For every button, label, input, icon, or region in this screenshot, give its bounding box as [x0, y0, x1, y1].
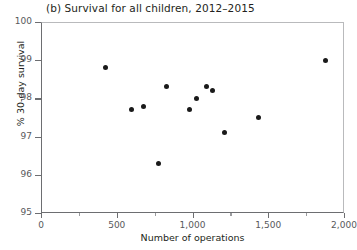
y-axis-tick-label: 100 — [0, 16, 32, 26]
x-axis-tick-label: 1,000 — [168, 220, 218, 230]
y-axis-tick-label: 98 — [0, 92, 32, 102]
scatter-point — [204, 84, 209, 89]
scatter-point — [156, 161, 161, 166]
scatter-point — [210, 88, 215, 93]
y-axis-tick-label: 97 — [0, 131, 32, 141]
scatter-point — [141, 104, 146, 109]
survival-scatter-figure: (b) Survival for all children, 2012–2015… — [0, 0, 357, 250]
x-axis-minor-tick — [79, 213, 80, 216]
x-axis-tick — [41, 213, 42, 218]
y-axis-tick-label: 99 — [0, 54, 32, 64]
scatter-point — [194, 96, 199, 101]
x-axis-minor-tick — [230, 213, 231, 216]
x-axis-title: Number of operations — [41, 232, 344, 243]
x-axis-tick — [193, 213, 194, 218]
y-axis-tick-label: 96 — [0, 169, 32, 179]
x-axis-minor-tick — [155, 213, 156, 216]
x-axis-tick-label: 2,000 — [319, 220, 357, 230]
scatter-point — [323, 58, 328, 63]
plot-area — [41, 22, 344, 213]
x-axis-tick-label: 1,500 — [243, 220, 293, 230]
x-axis-tick-label: 500 — [92, 220, 142, 230]
scatter-point — [222, 130, 227, 135]
scatter-point — [164, 84, 169, 89]
x-axis-minor-tick — [306, 213, 307, 216]
x-axis-tick — [268, 213, 269, 218]
y-axis-title: % 30-day survival — [15, 19, 26, 149]
scatter-point — [103, 65, 108, 70]
x-axis-tick — [344, 213, 345, 218]
x-axis-tick — [117, 213, 118, 218]
scatter-point — [129, 107, 134, 112]
scatter-point — [187, 107, 192, 112]
chart-title: (b) Survival for all children, 2012–2015 — [46, 2, 255, 14]
scatter-point — [256, 115, 261, 120]
y-axis-tick-label: 95 — [0, 207, 32, 217]
x-axis-tick-label: 0 — [16, 220, 66, 230]
